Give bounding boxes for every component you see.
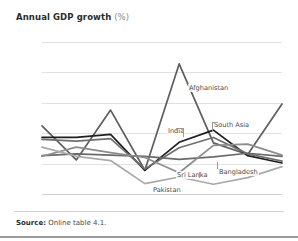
page-bottom-rule bbox=[0, 236, 298, 238]
chart-title-unit: (%) bbox=[114, 12, 129, 22]
footer-divider bbox=[14, 211, 284, 212]
chart-figure: Annual GDP growth (%) 051015202520052006… bbox=[0, 0, 298, 241]
series-label-leader bbox=[176, 128, 184, 129]
series-label-leader bbox=[199, 172, 200, 178]
source-text: Online table 4.1. bbox=[48, 219, 106, 227]
series-label-sri-lanka: Sri Lanka bbox=[176, 171, 208, 179]
series-label-afghanistan: Afghanistan bbox=[188, 84, 229, 92]
series-label-bangladesh: Bangladesh bbox=[218, 168, 259, 176]
series-label-leader bbox=[217, 162, 218, 169]
source-label: Source: bbox=[16, 219, 46, 227]
chart-title: Annual GDP growth (%) bbox=[16, 12, 129, 22]
series-label-leader bbox=[212, 122, 213, 131]
source-note: Source: Online table 4.1. bbox=[16, 219, 106, 227]
series-label-leader bbox=[212, 122, 218, 123]
x-axis-line bbox=[42, 194, 282, 195]
series-label-south-asia: South Asia bbox=[213, 121, 250, 129]
series-label-leader bbox=[183, 128, 184, 137]
series-label-pakistan: Pakistan bbox=[152, 186, 182, 194]
chart-title-main: Annual GDP growth bbox=[16, 12, 111, 22]
